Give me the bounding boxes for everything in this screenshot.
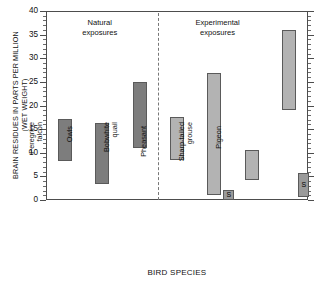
y-axis-minor-tick (43, 110, 46, 111)
x-axis-line (46, 199, 308, 200)
y-axis-right-minor-tick (308, 77, 311, 78)
y-axis-minor-tick (43, 63, 46, 64)
y-axis-tick-label: 35 (29, 31, 38, 39)
x-axis-label-text: Bobwhitequail (103, 122, 120, 196)
y-axis-minor-tick (43, 87, 46, 88)
natural-exposures-annotation-line: Natural (82, 18, 117, 28)
chart-container: BRAIN RESIDUES IN PARTS PER MILLION (WET… (0, 0, 325, 287)
y-axis-minor-tick (43, 54, 46, 55)
y-axis-right-minor-tick (308, 20, 311, 21)
y-axis-minor-tick (43, 25, 46, 26)
x-axis-label-line: Pigeon (215, 126, 223, 200)
y-axis-tick-label: 30 (29, 54, 38, 62)
experimental-exposures-annotation-line: exposures (195, 28, 239, 38)
y-axis-tick-label: 20 (29, 101, 38, 109)
y-axis-minor-tick (43, 16, 46, 17)
bar-sharp-tailed-grouse (245, 150, 259, 180)
natural-exposures-annotation: Naturalexposures (82, 18, 117, 37)
y-axis-major-tick (40, 11, 46, 12)
experimental-exposures-annotation: Experimentalexposures (195, 18, 239, 37)
x-axis-label-line: quail (111, 122, 119, 196)
y-axis-minor-tick (43, 44, 46, 45)
y-axis-right-minor-tick (308, 157, 311, 158)
y-axis-right-minor-tick (308, 68, 311, 69)
y-axis-right-minor-tick (308, 124, 311, 125)
x-axis-label-line: Owls (66, 126, 74, 200)
x-axis-label-text: Pigeon (215, 126, 223, 200)
y-axis-minor-tick (43, 91, 46, 92)
y-axis-right-minor-tick (308, 63, 311, 64)
y-axis-right-major-tick (308, 82, 314, 83)
y-axis-tick-label: 0 (33, 196, 38, 204)
y-axis-right-major-tick (308, 11, 314, 12)
y-axis-major-tick (40, 58, 46, 59)
y-axis-minor-tick (43, 49, 46, 50)
y-axis-minor-tick (43, 101, 46, 102)
y-axis-minor-tick (43, 39, 46, 40)
y-axis-major-tick (40, 200, 46, 201)
y-axis-right-minor-tick (308, 148, 311, 149)
y-axis-major-tick (40, 82, 46, 83)
x-axis-title: BIRD SPECIES (46, 268, 308, 277)
y-axis-right-minor-tick (308, 44, 311, 45)
y-axis-right-minor-tick (308, 143, 311, 144)
experimental-exposures-annotation-line: Experimental (195, 18, 239, 28)
y-axis-right-major-tick (308, 58, 314, 59)
y-axis-minor-tick (43, 115, 46, 116)
y-axis-right-minor-tick (308, 134, 311, 135)
y-axis-minor-tick (43, 68, 46, 69)
plot-top-border (46, 11, 308, 12)
y-axis-major-tick (40, 106, 46, 107)
y-axis-right-minor-tick (308, 49, 311, 50)
y-axis-minor-tick (43, 120, 46, 121)
y-axis-minor-tick (43, 20, 46, 21)
y-axis-right-minor-tick (308, 72, 311, 73)
y-axis-right-minor-tick (308, 167, 311, 168)
x-axis-label-line: grouse (186, 122, 194, 196)
survivor-marker-pheasant: S (223, 190, 234, 200)
y-axis-right-major-tick (308, 106, 314, 107)
y-axis-right-major-tick (308, 153, 314, 154)
x-axis-label-text: Owls (66, 126, 74, 200)
y-axis-minor-tick (43, 77, 46, 78)
y-axis-right-minor-tick (308, 39, 311, 40)
y-axis-right-minor-tick (308, 101, 311, 102)
y-axis-right-minor-tick (308, 139, 311, 140)
y-axis-tick-label: 40 (29, 7, 38, 15)
y-axis-tick-label: 25 (29, 78, 38, 86)
y-axis-right-minor-tick (308, 162, 311, 163)
y-axis-right-minor-tick (308, 115, 311, 116)
y-axis-right-minor-tick (308, 110, 311, 111)
survivor-marker-pigeon: S (298, 173, 309, 197)
x-axis-label-line: falcon (37, 122, 45, 196)
bar-pigeon (282, 30, 296, 110)
y-axis-right-major-tick (308, 35, 314, 36)
y-axis-line (46, 11, 47, 200)
x-axis-label-text: Pheasant (140, 126, 148, 200)
y-axis-title: BRAIN RESIDUES IN PARTS PER MILLION (WET… (0, 0, 28, 208)
natural-experimental-divider (158, 13, 159, 200)
natural-exposures-annotation-line: exposures (82, 28, 117, 38)
y-axis-right-minor-tick (308, 25, 311, 26)
y-axis-minor-tick (43, 30, 46, 31)
y-axis-right-minor-tick (308, 54, 311, 55)
y-axis-minor-tick (43, 72, 46, 73)
y-axis-right-minor-tick (308, 30, 311, 31)
x-axis-label-line: Pheasant (140, 126, 148, 200)
y-axis-major-tick (40, 35, 46, 36)
y-axis-right-minor-tick (308, 96, 311, 97)
y-axis-right-minor-tick (308, 87, 311, 88)
y-axis-right-major-tick (308, 129, 314, 130)
y-axis-right-major-tick (308, 200, 314, 201)
plot-area: 0510152025303540 NaturalexposuresExperim… (46, 11, 308, 200)
y-axis-right-minor-tick (308, 91, 311, 92)
y-axis-right-minor-tick (308, 16, 311, 17)
x-axis-label-text: Sharp-tailedgrouse (178, 122, 195, 196)
y-axis-right-minor-tick (308, 120, 311, 121)
x-axis-label-text: Peregrinefalcon (28, 122, 45, 196)
y-axis-minor-tick (43, 96, 46, 97)
